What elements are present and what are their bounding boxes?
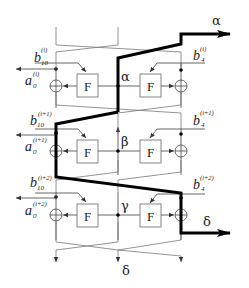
- right-labels-row-3: b 4 (i+2): [193, 174, 214, 193]
- xor-icon: [175, 145, 187, 157]
- f-label: F: [84, 79, 91, 94]
- delta-bottom-label: δ: [122, 263, 130, 278]
- svg-text:(i): (i): [41, 46, 47, 54]
- left-labels-row-2: b 10 (i+1) a 0 (i+1): [25, 110, 52, 156]
- svg-text:(i+2): (i+2): [33, 200, 47, 208]
- svg-text:a: a: [25, 139, 32, 154]
- svg-text:10: 10: [37, 121, 45, 129]
- svg-text:(i): (i): [200, 45, 206, 53]
- f-label: F: [147, 145, 154, 160]
- svg-text:a: a: [25, 73, 32, 88]
- svg-text:4: 4: [201, 56, 205, 64]
- svg-text:(i+1): (i+1): [33, 136, 47, 144]
- feistel-diagram: F F α: [0, 0, 249, 288]
- svg-text:10: 10: [37, 184, 45, 192]
- svg-text:b: b: [30, 113, 37, 128]
- left-labels-row-1: b 10 (i) a 0 (i): [25, 46, 49, 90]
- xor-icon: [175, 80, 187, 92]
- svg-text:0: 0: [33, 148, 37, 156]
- svg-text:(i+1): (i+1): [200, 109, 214, 117]
- delta-output-label: δ: [203, 214, 211, 229]
- gamma-label: γ: [121, 198, 129, 213]
- beta-label: β: [121, 134, 129, 149]
- svg-text:0: 0: [33, 82, 37, 90]
- right-labels-row-2: b 4 (i+1): [193, 109, 214, 129]
- f-label: F: [84, 145, 91, 160]
- alpha-label: α: [121, 69, 130, 84]
- svg-text:(i+1): (i+1): [38, 110, 52, 118]
- svg-text:(i+2): (i+2): [38, 174, 52, 182]
- svg-text:(i): (i): [33, 70, 39, 78]
- svg-text:b: b: [34, 50, 41, 65]
- svg-text:0: 0: [33, 212, 37, 220]
- xor-icon: [50, 209, 62, 221]
- f-label: F: [147, 79, 154, 94]
- crossing-2-3: [56, 160, 181, 192]
- bottom-crossing: [56, 222, 181, 262]
- svg-text:4: 4: [201, 185, 205, 193]
- alpha-output-label: α: [212, 13, 221, 28]
- round-1: F F α: [16, 63, 205, 108]
- right-labels-row-1: b 4 (i): [193, 45, 206, 64]
- svg-text:b: b: [193, 48, 200, 63]
- f-label: F: [84, 209, 91, 224]
- svg-text:4: 4: [201, 121, 205, 129]
- left-labels-row-3: b 10 (i+2) a 0 (i+2): [25, 174, 52, 220]
- svg-text:10: 10: [41, 59, 49, 67]
- svg-text:a: a: [25, 203, 32, 218]
- svg-text:b: b: [30, 175, 37, 190]
- svg-text:(i+2): (i+2): [200, 174, 214, 182]
- f-label: F: [147, 209, 154, 224]
- svg-text:b: b: [193, 177, 200, 192]
- svg-text:b: b: [193, 113, 200, 128]
- xor-icon: [50, 80, 62, 92]
